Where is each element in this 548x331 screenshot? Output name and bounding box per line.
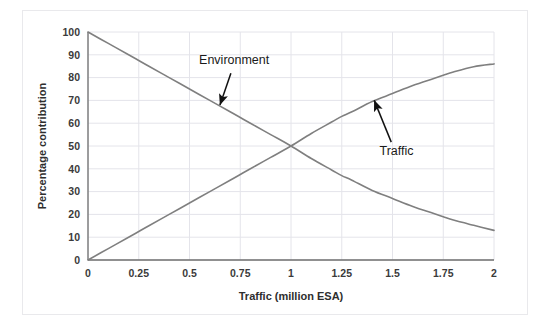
line-chart: 0102030405060708090100 00.250.50.7511.25… [0,0,548,331]
x-tick-label: 0.5 [182,267,197,279]
annotation-group: Environment Traffic [199,53,414,158]
chart-screenshot: 0102030405060708090100 00.250.50.7511.25… [0,0,548,331]
y-tick-label: 90 [68,49,80,61]
x-axis-title: Traffic (million ESA) [239,290,344,302]
x-tick-label: 1.5 [385,267,400,279]
y-axis-tick-labels: 0102030405060708090100 [62,26,80,266]
x-axis-tick-labels: 00.250.50.7511.251.51.752 [85,267,497,279]
x-tick-label: 1.75 [433,267,454,279]
y-tick-label: 70 [68,94,80,106]
y-tick-label: 40 [68,163,80,175]
y-tick-label: 20 [68,208,80,220]
y-axis-title: Percentage contribution [36,82,48,209]
y-tick-label: 50 [68,140,80,152]
y-tick-label: 100 [62,26,80,38]
y-tick-label: 60 [68,117,80,129]
y-tick-label: 80 [68,71,80,83]
x-tick-label: 2 [491,267,497,279]
y-tick-label: 30 [68,185,80,197]
traffic-arrow [374,100,391,142]
x-tick-label: 0.75 [230,267,251,279]
environment-label: Environment [199,53,270,67]
y-tick-label: 0 [74,254,80,266]
traffic-label: Traffic [380,144,414,158]
x-tick-label: 1 [288,267,294,279]
x-tick-label: 0.25 [129,267,150,279]
x-tick-label: 0 [85,267,91,279]
x-tick-label: 1.25 [332,267,353,279]
y-tick-label: 10 [68,231,80,243]
